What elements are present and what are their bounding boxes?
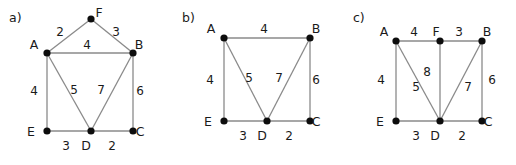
graph-canvas: 234457632FABEDCa)4457632ABEDCb)434587632… (0, 0, 516, 165)
node-label-c: C (484, 114, 493, 129)
node-label-f: F (95, 5, 102, 20)
node-f (87, 15, 94, 22)
graph-panel-c: 434587632AFBEDCc) (353, 10, 496, 143)
node-a (392, 37, 399, 44)
edge-weight-b-d: 7 (275, 71, 283, 85)
graph-panel-b: 4457632ABEDCb) (182, 10, 321, 143)
edge-b-d (267, 38, 310, 121)
node-d (87, 127, 94, 134)
node-a (43, 49, 50, 56)
edge-weight-f-d: 8 (423, 65, 431, 79)
edge-weight-e-d: 3 (412, 129, 420, 143)
edge-weight-f-b: 3 (455, 25, 463, 39)
panel-caption-c: c) (353, 10, 365, 25)
node-label-b: B (135, 37, 144, 52)
edge-a-d (47, 53, 91, 131)
node-label-b: B (312, 21, 321, 36)
edge-weight-e-d: 3 (62, 139, 70, 153)
node-label-d: D (81, 138, 91, 153)
edge-weight-a-d: 5 (70, 83, 78, 97)
node-label-e: E (204, 114, 212, 129)
edge-weight-b-c: 6 (136, 84, 144, 98)
node-label-e: E (376, 114, 384, 129)
edge-weight-a-f: 4 (410, 25, 418, 39)
edge-b-d (440, 41, 482, 121)
node-label-a: A (380, 24, 389, 39)
node-d (436, 117, 443, 124)
edge-weight-a-e: 4 (30, 84, 38, 98)
edge-weight-b-c: 6 (488, 73, 496, 87)
node-d (263, 117, 270, 124)
panel-caption-a: a) (9, 10, 22, 25)
node-label-f: F (432, 24, 439, 39)
panel-caption-b: b) (182, 10, 195, 25)
edge-weight-b-d: 7 (464, 80, 472, 94)
weighted-graph-figure: 234457632FABEDCa)4457632ABEDCb)434587632… (0, 0, 516, 165)
edge-weight-d-c: 2 (108, 139, 116, 153)
node-e (220, 117, 227, 124)
edge-weight-a-d: 5 (412, 80, 420, 94)
edge-weight-f-b: 3 (112, 25, 120, 39)
node-label-a: A (207, 21, 216, 36)
node-label-d: D (430, 128, 440, 143)
edge-weight-a-b: 4 (83, 38, 91, 52)
edge-weight-a-b: 4 (260, 22, 268, 36)
node-label-a: A (30, 37, 39, 52)
node-label-d: D (257, 128, 267, 143)
edge-weight-a-e: 4 (377, 73, 385, 87)
node-e (392, 117, 399, 124)
edge-weight-b-c: 6 (312, 73, 320, 87)
node-label-c: C (136, 124, 145, 139)
edge-weight-e-d: 3 (239, 129, 247, 143)
edge-weight-d-c: 2 (458, 129, 466, 143)
node-a (220, 34, 227, 41)
node-label-c: C (312, 114, 321, 129)
edge-weight-d-c: 2 (285, 129, 293, 143)
node-e (43, 127, 50, 134)
edge-weight-a-f: 2 (56, 25, 64, 39)
edge-weight-b-d: 7 (97, 83, 105, 97)
edge-weight-a-d: 5 (245, 71, 253, 85)
node-label-e: E (27, 124, 35, 139)
node-label-b: B (483, 24, 492, 39)
graph-panel-a: 234457632FABEDCa) (9, 5, 145, 153)
edge-weight-a-e: 4 (206, 73, 214, 87)
